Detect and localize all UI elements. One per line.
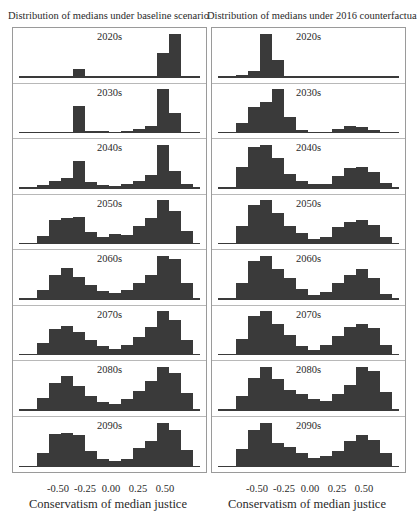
panel-label: 2080s [212, 364, 405, 375]
histogram-panel-2040s: 2040s [212, 139, 405, 195]
histogram-bar [157, 53, 169, 77]
histogram-bar [344, 275, 356, 299]
histogram-bar [85, 232, 97, 244]
panel-label: 2070s [13, 309, 206, 320]
histogram-bar [181, 283, 193, 299]
histogram-bar [25, 187, 37, 189]
histogram-bar [181, 393, 193, 410]
histogram-bar [272, 269, 284, 300]
histogram-bar [181, 184, 193, 189]
panel-stack-counterfactual: 2020s2030s2040s2050s2060s2070s2080s2090s [211, 27, 406, 473]
histogram-bar [296, 453, 308, 467]
histogram-bar [356, 167, 368, 189]
histogram-panel-2050s: 2050s [212, 195, 405, 251]
histogram-panel-2040s: 2040s [13, 139, 206, 195]
histogram-bar [169, 211, 181, 244]
histogram-bar [248, 378, 260, 411]
histogram-bar [320, 401, 332, 410]
histogram-bar [37, 290, 49, 300]
histogram-bar [109, 186, 121, 189]
histogram-bar [73, 386, 85, 411]
histogram-bar [61, 326, 73, 355]
histogram-bar [133, 448, 145, 467]
x-tick: 0.00 [102, 483, 120, 494]
histogram-bar [224, 466, 236, 468]
histogram-bar [332, 394, 344, 410]
histogram-bar [97, 185, 109, 188]
histogram-bar [284, 117, 296, 133]
histogram-bar [25, 243, 37, 245]
histogram-bar [109, 461, 121, 467]
histogram-bar [296, 181, 308, 188]
histogram-bar [236, 396, 248, 411]
histogram-bar [73, 435, 85, 467]
histogram-bar [169, 430, 181, 467]
histogram-bar [224, 132, 236, 134]
histogram-bar [332, 451, 344, 467]
histogram-bar [296, 130, 308, 133]
histogram-bar [73, 161, 85, 188]
histogram-bar [133, 283, 145, 300]
histogram-bar [49, 220, 61, 244]
x-axis-label-baseline: Conservatism of median justice [8, 497, 208, 512]
panel-label: 2050s [13, 198, 206, 209]
histogram-bar [37, 185, 49, 189]
histogram-bar [332, 76, 344, 78]
histogram-bar [181, 340, 193, 355]
histogram-bar [97, 76, 109, 78]
histogram-bar [284, 174, 296, 189]
histogram-bar [49, 329, 61, 355]
panel-label: 2090s [13, 420, 206, 431]
histogram-bar [368, 328, 380, 355]
histogram-bar [308, 295, 320, 299]
histogram-bar [368, 371, 380, 411]
histogram-bar [133, 226, 145, 244]
histogram-bar [380, 392, 392, 410]
histogram-bar [73, 332, 85, 355]
histogram-bar [49, 383, 61, 410]
histogram-bar [320, 76, 332, 78]
histogram-panel-2090s: 2090s [212, 417, 405, 473]
histogram-bar [344, 222, 356, 244]
histogram-panel-2020s: 2020s [212, 28, 405, 84]
histogram-bar [224, 409, 236, 411]
histogram-bar [236, 226, 248, 244]
histogram-bar [97, 459, 109, 467]
histogram-bar [308, 350, 320, 355]
histogram-bar [97, 131, 109, 133]
histogram-panel-2090s: 2090s [13, 417, 206, 473]
histogram-bar [296, 289, 308, 300]
panel-label: 2090s [212, 420, 405, 431]
histogram-bar [320, 292, 332, 300]
histogram-bar [224, 187, 236, 189]
x-tick: -0.50 [47, 483, 69, 494]
histogram-panel-2030s: 2030s [13, 84, 206, 140]
histogram-bar [236, 283, 248, 300]
histogram-bar [145, 381, 157, 411]
chart-title-counterfactual: Distribution of medians under 2016 count… [207, 10, 407, 21]
histogram-bar [308, 239, 320, 244]
histogram-bar [73, 277, 85, 300]
x-tick: -0.50 [246, 483, 268, 494]
histogram-bar [85, 182, 97, 188]
histogram-bar [380, 183, 392, 189]
histogram-bar [49, 132, 61, 134]
histogram-bar [248, 205, 260, 244]
histogram-bar [133, 129, 145, 133]
histogram-bar [145, 327, 157, 355]
histogram-panel-2070s: 2070s [212, 306, 405, 362]
panel-label: 2060s [13, 253, 206, 264]
chart-title-baseline: Distribution of medians under baseline s… [8, 10, 208, 21]
histogram-bar [49, 275, 61, 299]
histogram-bar [296, 76, 308, 78]
histogram-bar [121, 399, 133, 410]
x-tick: 0.25 [328, 483, 346, 494]
histogram-bar [356, 220, 368, 244]
histogram-bar [145, 126, 157, 133]
histogram-bar [296, 346, 308, 355]
histogram-bar [97, 237, 109, 244]
histogram-bar [284, 447, 296, 467]
histogram-bar [380, 453, 392, 467]
histogram-bar [25, 409, 37, 411]
panel-label: 2070s [212, 309, 405, 320]
